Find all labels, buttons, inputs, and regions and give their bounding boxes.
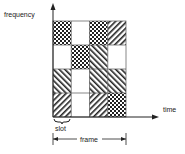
slot-cell-back-hatch	[53, 69, 71, 93]
slot-cell-back-hatch	[108, 69, 126, 93]
slot-cell-checker	[90, 21, 108, 45]
slot-label: slot	[55, 125, 66, 132]
y-axis-label: frequency	[4, 11, 35, 19]
slot-cell-forward-hatch	[90, 93, 108, 117]
slot-cell-empty	[71, 69, 89, 93]
slot-cell-back-hatch	[90, 69, 108, 93]
slot-cell-checker	[108, 93, 126, 117]
slot-brace	[54, 119, 70, 124]
slot-cell-back-hatch	[90, 45, 108, 69]
slot-cell-checker	[71, 45, 89, 69]
frame-label: frame	[80, 136, 98, 143]
slot-cell-forward-hatch	[108, 21, 126, 45]
arrow-up-icon	[51, 3, 56, 10]
slot-cell-checker	[53, 21, 71, 45]
x-axis-label: time	[163, 106, 176, 113]
slot-cell-empty	[71, 93, 89, 117]
slot-cell-empty	[53, 45, 71, 69]
slot-cell-empty	[108, 45, 126, 69]
slot-cell-forward-hatch	[53, 93, 71, 117]
arrow-right-icon	[152, 115, 159, 120]
time-frequency-diagram: frequency time slot frame	[0, 0, 185, 154]
slot-cell-empty	[71, 21, 89, 45]
